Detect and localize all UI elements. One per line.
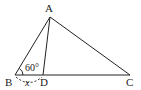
angle-arc-b: [20, 69, 24, 76]
point-label-d: D: [40, 76, 48, 88]
triangle-diagram: A B C D 60° x: [0, 0, 141, 90]
point-label-b: B: [5, 76, 12, 88]
length-label: x: [24, 77, 30, 88]
angle-label: 60°: [25, 62, 39, 73]
point-label-a: A: [45, 2, 53, 14]
segment-ad: [43, 17, 50, 75]
point-label-c: C: [126, 76, 133, 88]
segment-ac: [50, 17, 130, 75]
